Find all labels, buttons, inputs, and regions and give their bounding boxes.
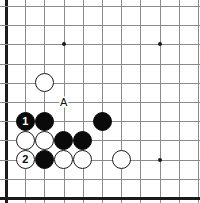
board-label-layer: A: [0, 0, 200, 203]
go-board-diagram: 12 A: [0, 0, 200, 203]
point-label-a: A: [59, 97, 68, 108]
